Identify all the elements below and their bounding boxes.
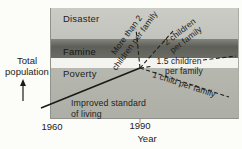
improved-standard-label: Improved standard of living (71, 98, 146, 120)
x-tick-label-1990: 1990 (122, 120, 158, 131)
x-axis-title: Year (129, 133, 165, 144)
y-axis-label-line1: Total (1, 55, 53, 66)
x-tick-label-1960: 1960 (34, 121, 70, 132)
y-axis-label-line2: population (1, 66, 53, 77)
population-scenarios-figure: Total population Disaster Famine Poverty… (0, 0, 242, 149)
improved-standard-label-line2: of living (71, 109, 146, 120)
y-axis-label: Total population (1, 55, 53, 77)
total-population-arrow-head-icon (20, 79, 26, 86)
1-5-children-line-right (203, 56, 236, 60)
improved-standard-label-line1: Improved standard (71, 98, 146, 109)
